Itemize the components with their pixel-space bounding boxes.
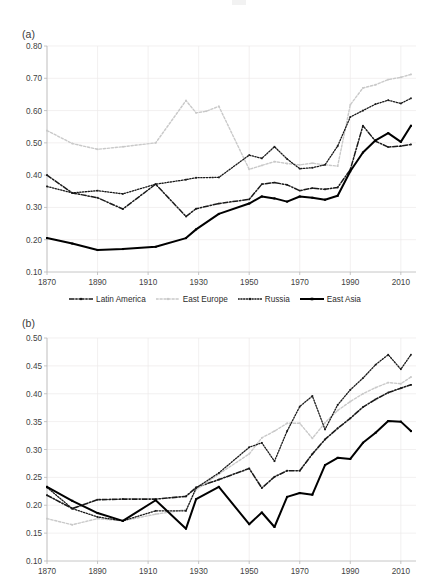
svg-text:0.25: 0.25: [26, 473, 42, 482]
legend-item-east-asia: East Asia: [300, 295, 361, 304]
svg-text:1970: 1970: [291, 278, 310, 287]
svg-text:2010: 2010: [392, 567, 411, 576]
svg-text:0.50: 0.50: [26, 139, 42, 148]
svg-text:0.20: 0.20: [26, 501, 42, 510]
series-latin-america: [46, 125, 412, 217]
svg-text:0.35: 0.35: [26, 418, 42, 427]
legend-swatch-dash-dot-icon: [69, 295, 93, 303]
svg-text:0.30: 0.30: [26, 203, 42, 212]
series-latin-america: [46, 384, 412, 509]
series-russia: [46, 354, 412, 522]
svg-text:0.50: 0.50: [26, 334, 42, 343]
svg-text:0.20: 0.20: [26, 236, 42, 245]
legend-item-east-europe: East Europe: [156, 295, 228, 304]
panel-a-plot: 0.100.200.300.400.500.600.700.8018701890…: [0, 0, 430, 290]
svg-text:1910: 1910: [139, 567, 158, 576]
svg-text:0.15: 0.15: [26, 529, 42, 538]
svg-text:0.80: 0.80: [26, 42, 42, 51]
svg-text:1910: 1910: [139, 278, 158, 287]
legend-label: East Europe: [183, 295, 228, 304]
svg-text:0.70: 0.70: [26, 74, 42, 83]
svg-text:0.45: 0.45: [26, 362, 42, 371]
svg-text:0.10: 0.10: [26, 268, 42, 277]
legend-swatch-dotted-icon: [156, 295, 180, 303]
svg-text:0.30: 0.30: [26, 446, 42, 455]
svg-text:2010: 2010: [392, 278, 411, 287]
legend-swatch-solid-icon: [300, 295, 324, 303]
svg-text:1890: 1890: [88, 567, 107, 576]
svg-text:1890: 1890: [88, 278, 107, 287]
svg-text:0.40: 0.40: [26, 171, 42, 180]
series-east-asia: [46, 420, 412, 530]
svg-text:1870: 1870: [38, 567, 57, 576]
legend-item-latin-america: Latin America: [69, 295, 146, 304]
legend-label: Latin America: [96, 295, 146, 304]
svg-text:0.10: 0.10: [26, 557, 42, 566]
legend-label: East Asia: [327, 295, 361, 304]
panel-b-plot: 0.100.150.200.250.300.350.400.450.501870…: [0, 313, 430, 583]
chart-panel-a: (a) 0.100.200.300.400.500.600.700.801870…: [0, 0, 430, 313]
svg-text:1930: 1930: [190, 567, 209, 576]
svg-text:1950: 1950: [240, 278, 259, 287]
svg-text:1950: 1950: [240, 567, 259, 576]
chart-legend: Latin AmericaEast EuropeRussiaEast Asia: [0, 291, 430, 307]
svg-text:0.60: 0.60: [26, 107, 42, 116]
series-east-europe: [46, 74, 412, 171]
svg-text:1990: 1990: [341, 567, 360, 576]
svg-text:1870: 1870: [38, 278, 57, 287]
panel-b-label: (b): [22, 317, 35, 329]
chart-panel-b: (b) 0.100.150.200.250.300.350.400.450.50…: [0, 313, 430, 583]
svg-text:0.40: 0.40: [26, 390, 42, 399]
figure-container: (a) 0.100.200.300.400.500.600.700.801870…: [0, 0, 430, 583]
legend-swatch-dash-dot-short-icon: [238, 295, 262, 303]
svg-text:1970: 1970: [291, 567, 310, 576]
panel-a-label: (a): [22, 28, 35, 40]
svg-text:1930: 1930: [190, 278, 209, 287]
legend-label: Russia: [265, 295, 290, 304]
svg-text:1990: 1990: [341, 278, 360, 287]
legend-item-russia: Russia: [238, 295, 290, 304]
